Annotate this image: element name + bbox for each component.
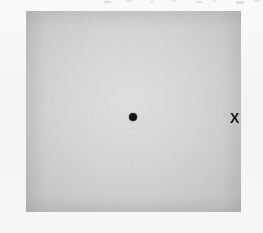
gray-square-patch: X	[26, 11, 241, 212]
patch-grain-texture	[26, 11, 241, 212]
figure-root: X	[0, 0, 263, 233]
scan-artifact-specks	[0, 0, 263, 7]
fixation-dot-icon	[129, 113, 137, 121]
x-mark-icon: X	[230, 111, 239, 125]
